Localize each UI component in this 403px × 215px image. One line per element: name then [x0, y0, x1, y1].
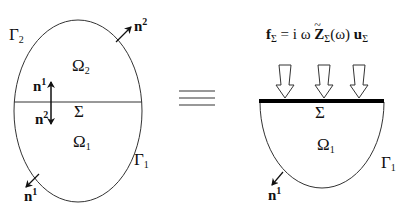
sigma-left-label: Σ — [74, 103, 84, 120]
eq-omega-arg: (ω) — [330, 26, 350, 42]
n2-interface-label: n2 — [35, 112, 48, 127]
impedance-equation: fΣ = i ω ~ZΣ(ω) uΣ — [266, 27, 368, 42]
omega1-right-label: Ω1 — [317, 136, 335, 153]
eq-equals: = — [281, 26, 289, 42]
eq-u: u — [354, 26, 362, 42]
omega-symbol: Ω — [72, 56, 85, 75]
load-arrow-1 — [276, 65, 294, 98]
gamma-symbol: Γ — [9, 25, 19, 44]
n1-outer-label: n1 — [24, 189, 37, 204]
load-arrow-2 — [315, 65, 333, 98]
load-arrow-3 — [350, 65, 368, 98]
gamma1-right-label: Γ1 — [381, 154, 396, 171]
equivalence-icon — [179, 91, 215, 105]
n1-right-label: n1 — [268, 188, 281, 203]
sigma-symbol: Σ — [315, 103, 325, 122]
omega2-label: Ω2 — [72, 57, 90, 74]
n-sup: 1 — [32, 186, 37, 197]
eq-z-sub: Σ — [324, 33, 330, 44]
n-sup: 1 — [276, 185, 281, 196]
sigma-right-label: Σ — [315, 104, 325, 121]
n1-interface-label: n1 — [33, 79, 46, 94]
eq-i-omega: i ω — [293, 26, 311, 42]
n-sup: 2 — [142, 16, 147, 27]
gamma-sub: 1 — [144, 159, 149, 170]
gamma-symbol: Γ — [381, 153, 391, 172]
gamma2-label: Γ2 — [9, 26, 24, 43]
omega-sub: 1 — [86, 141, 91, 152]
omega-symbol: Ω — [73, 132, 86, 151]
omega-sub: 2 — [85, 65, 90, 76]
omega-sub: 1 — [330, 144, 335, 155]
n-sup: 2 — [43, 109, 48, 120]
right-normal-n1-arrow — [272, 172, 283, 185]
omega-symbol: Ω — [317, 135, 330, 154]
eq-u-sub: Σ — [362, 33, 368, 44]
n2-outer-label: n2 — [134, 19, 147, 34]
gamma-sub: 1 — [391, 162, 396, 173]
eq-f-sub: Σ — [271, 33, 277, 44]
sigma-symbol: Σ — [74, 102, 84, 121]
normal-n2-outer-arrow — [116, 27, 131, 42]
gamma1-left-label: Γ1 — [134, 151, 149, 168]
load-arrows — [276, 65, 368, 98]
n-sup: 1 — [41, 76, 46, 87]
omega1-left-label: Ω1 — [73, 133, 91, 150]
gamma-sub: 2 — [19, 34, 24, 45]
gamma-symbol: Γ — [134, 150, 144, 169]
diagram-canvas: Γ2 n2 Ω2 n1 Σ n2 Ω1 Γ1 n1 fΣ = i ω ~ZΣ(ω… — [0, 0, 403, 215]
eq-z-tilde: ~Z — [314, 27, 324, 42]
